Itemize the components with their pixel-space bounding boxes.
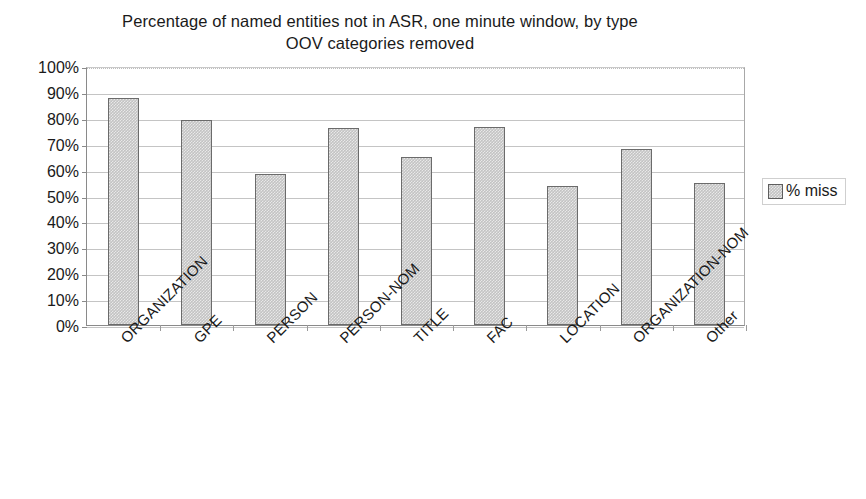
gridline-90 — [87, 94, 744, 95]
chart-title-line-1: Percentage of named entities not in ASR,… — [0, 10, 760, 32]
x-tick-4 — [453, 325, 454, 331]
y-axis-label-90: 90% — [47, 85, 79, 103]
y-tick-40 — [82, 223, 87, 224]
x-tick-3 — [380, 325, 381, 331]
gridline-100 — [87, 68, 744, 69]
bar-organization — [108, 98, 139, 325]
y-tick-10 — [82, 301, 87, 302]
y-axis-label-50: 50% — [47, 189, 79, 207]
y-tick-20 — [82, 275, 87, 276]
x-tick-7 — [673, 325, 674, 331]
bar-gpe — [181, 120, 212, 325]
bar-person-nom — [328, 128, 359, 325]
y-axis-label-30: 30% — [47, 240, 79, 258]
y-tick-0 — [82, 327, 87, 328]
bar-person — [255, 174, 286, 326]
y-axis-label-40: 40% — [47, 214, 79, 232]
chart-title: Percentage of named entities not in ASR,… — [0, 10, 760, 54]
y-tick-100 — [82, 68, 87, 69]
y-axis-label-100: 100% — [38, 59, 79, 77]
x-tick-0 — [160, 325, 161, 331]
y-axis-label-20: 20% — [47, 266, 79, 284]
y-tick-30 — [82, 249, 87, 250]
y-tick-90 — [82, 94, 87, 95]
legend-swatch-percent-miss — [768, 184, 783, 199]
x-tick-2 — [307, 325, 308, 331]
y-axis-label-10: 10% — [47, 292, 79, 310]
legend-label-percent-miss: % miss — [786, 182, 838, 200]
x-tick-5 — [526, 325, 527, 331]
y-axis-label-0: 0% — [56, 318, 79, 336]
chart-legend: % miss — [762, 178, 846, 205]
x-tick-6 — [600, 325, 601, 331]
y-tick-70 — [82, 146, 87, 147]
y-tick-80 — [82, 120, 87, 121]
chart-title-line-2: OOV categories removed — [0, 32, 760, 54]
y-tick-50 — [82, 198, 87, 199]
bar-title — [401, 157, 432, 325]
y-axis-label-80: 80% — [47, 111, 79, 129]
y-axis-label-70: 70% — [47, 137, 79, 155]
x-tick-8 — [746, 325, 747, 331]
y-tick-60 — [82, 172, 87, 173]
x-tick-1 — [233, 325, 234, 331]
bar-organization-nom — [621, 149, 652, 325]
bar-fac — [474, 127, 505, 325]
y-axis-label-60: 60% — [47, 163, 79, 181]
bar-location — [547, 186, 578, 325]
